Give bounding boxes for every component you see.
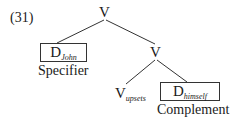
specifier-label: D (50, 44, 61, 60)
complement-subscript: himself (184, 92, 207, 101)
complement-label: D (173, 83, 184, 99)
head-label: V (115, 85, 126, 101)
specifier-subscript: John (61, 53, 77, 62)
head-subscript: upsets (126, 94, 146, 103)
intermediate-label: V (150, 44, 161, 60)
intermediate-node: V (150, 44, 161, 60)
head-node: Vupsets (115, 85, 146, 107)
complement-node-box: Dhimself (160, 82, 220, 101)
specifier-node-box: DJohn (40, 43, 87, 62)
example-number: (31) (10, 10, 33, 26)
specifier-role-label: Specifier (38, 63, 89, 79)
root-label: V (99, 4, 110, 20)
root-node: V (99, 4, 110, 20)
complement-role-label: Complement (157, 102, 229, 118)
